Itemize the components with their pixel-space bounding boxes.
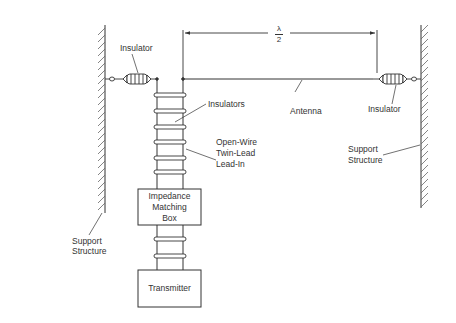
lead-in-label-line3: Lead-In [216,159,245,169]
antenna-wire [182,78,373,81]
dimension-denominator: 2 [272,35,286,45]
insulator-left-label: Insulator [120,43,153,53]
left-support-structure [98,25,105,213]
insulators-label: Insulators [208,99,245,109]
support-right-label-line1: Support [348,144,378,154]
impedance-box-label-line2: Matching [138,202,201,213]
antenna-diagram: Insulator Insulator Insulators Antenna O… [0,0,456,323]
right-support-structure [421,25,428,208]
spacer-insulators [154,93,186,258]
lead-in-label-line1: Open-Wire [216,137,257,147]
dimension-numerator: λ [272,24,286,34]
right-insulator [373,74,421,84]
support-left-label-line1: Support [72,236,102,246]
left-insulator [105,74,158,84]
transmitter-box-label: Transmitter [138,283,201,294]
impedance-box-label-line1: Impedance [138,191,201,202]
support-right-label-line2: Structure [348,155,383,165]
lead-in-label-line2: Twin-Lead [216,148,255,158]
insulator-right-label: Insulator [368,104,401,114]
support-left-label-line2: Structure [72,246,107,256]
impedance-box-label-line3: Box [138,213,201,224]
antenna-label: Antenna [290,106,322,116]
